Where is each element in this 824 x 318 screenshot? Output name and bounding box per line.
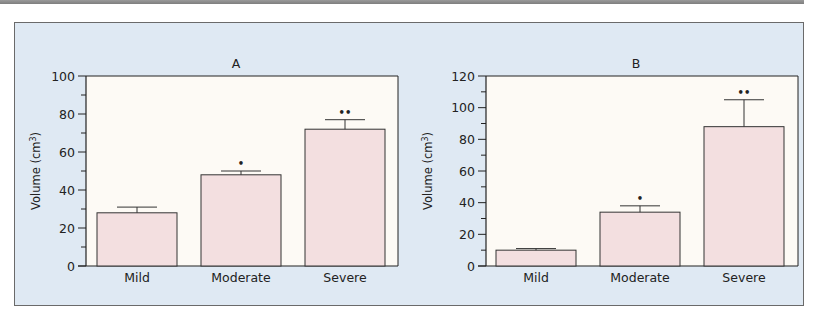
y-tick-label: 60 bbox=[59, 145, 75, 160]
bar bbox=[201, 175, 281, 266]
y-tick-label: 60 bbox=[459, 164, 475, 179]
y-tick-label: 20 bbox=[459, 227, 475, 242]
significance-marker: •• bbox=[738, 87, 751, 98]
chart-a: 020406080100AVolume (cm3)Mild•Moderate••… bbox=[29, 56, 398, 285]
bar bbox=[97, 213, 177, 266]
bar bbox=[496, 250, 576, 266]
y-tick-label: 40 bbox=[459, 195, 475, 210]
bar-mild: Mild bbox=[97, 207, 177, 285]
y-tick-label: 80 bbox=[459, 132, 475, 147]
significance-marker: • bbox=[637, 193, 643, 204]
y-tick-label: 20 bbox=[59, 221, 75, 236]
bar bbox=[704, 127, 784, 266]
x-tick-label: Severe bbox=[323, 270, 367, 285]
significance-marker: • bbox=[238, 158, 244, 169]
x-tick-label: Mild bbox=[523, 270, 549, 285]
y-tick-label: 40 bbox=[59, 183, 75, 198]
y-tick-label: 100 bbox=[451, 100, 475, 115]
chart-title: A bbox=[232, 56, 241, 71]
y-tick-label: 100 bbox=[51, 69, 75, 84]
y-tick-label: 0 bbox=[67, 259, 75, 274]
x-tick-label: Moderate bbox=[610, 270, 670, 285]
significance-marker: •• bbox=[339, 107, 352, 118]
chart-title: B bbox=[632, 56, 641, 71]
chart-b: 020406080100120BVolume (cm3)Mild•Moderat… bbox=[421, 56, 798, 285]
figure: 020406080100AVolume (cm3)Mild•Moderate••… bbox=[0, 0, 824, 318]
y-tick-label: 80 bbox=[59, 107, 75, 122]
y-axis-label: Volume (cm3) bbox=[29, 132, 43, 210]
y-tick-label: 0 bbox=[467, 259, 475, 274]
bar-severe: ••Severe bbox=[305, 107, 385, 285]
bar-mild: Mild bbox=[496, 249, 576, 285]
y-tick-label: 120 bbox=[451, 69, 475, 84]
bar bbox=[600, 212, 680, 266]
bar-moderate: •Moderate bbox=[201, 158, 281, 285]
x-tick-label: Moderate bbox=[211, 270, 271, 285]
x-tick-label: Severe bbox=[722, 270, 766, 285]
bar bbox=[305, 129, 385, 266]
x-tick-label: Mild bbox=[124, 270, 150, 285]
y-axis-label: Volume (cm3) bbox=[421, 132, 435, 210]
